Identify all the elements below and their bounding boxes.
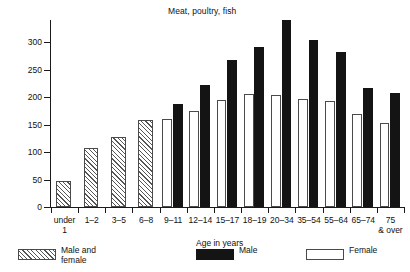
bar <box>217 100 227 207</box>
chart-legend: Male andfemaleMaleFemale <box>0 248 410 272</box>
y-axis-tick-label: 100 <box>2 147 42 157</box>
bar-group <box>377 20 404 207</box>
x-axis-tick <box>78 208 79 213</box>
legend-swatch <box>196 249 234 260</box>
y-axis-tick-label: 150 <box>2 120 42 130</box>
bar-group <box>350 20 377 207</box>
y-axis-tick <box>44 42 51 43</box>
bar <box>227 60 237 207</box>
bar <box>138 120 153 207</box>
y-axis-tick <box>44 152 51 153</box>
bar-group <box>241 20 268 207</box>
x-axis-tick-label: 20–34 <box>270 215 294 225</box>
x-axis-tick-label: under1 <box>54 215 76 235</box>
bar-group <box>187 20 214 207</box>
y-axis-tick-label: 50 <box>2 175 42 185</box>
x-axis-tick <box>241 208 242 213</box>
bar-group <box>295 20 322 207</box>
y-axis-tick-label: 300 <box>2 37 42 47</box>
x-axis-tick <box>214 208 215 213</box>
x-axis-tick <box>105 208 106 213</box>
y-axis-tick-label: 200 <box>2 92 42 102</box>
bar-group <box>78 20 105 207</box>
bar <box>336 52 346 207</box>
y-axis-tick-label: 0 <box>2 202 42 212</box>
x-axis-tick-label: 9–11 <box>164 215 182 225</box>
bar <box>189 111 199 207</box>
bar <box>363 88 373 207</box>
bar <box>244 94 254 207</box>
legend-swatch <box>306 249 344 260</box>
x-axis-tick-label: 15–17 <box>216 215 240 225</box>
bar <box>111 137 126 207</box>
bar-group <box>132 20 159 207</box>
x-axis-tick-label: 75& over <box>378 215 403 235</box>
y-axis-tick <box>44 180 51 181</box>
chart-title: Meat, poultry, fish <box>168 6 236 16</box>
y-axis-tick <box>44 97 51 98</box>
x-axis-tick <box>187 208 188 213</box>
x-axis-line <box>50 207 405 208</box>
x-axis-tick-label: 6–8 <box>139 215 153 225</box>
x-axis-tick-label: 35–54 <box>297 215 321 225</box>
bar-group <box>268 20 295 207</box>
y-axis-tick <box>44 207 51 208</box>
bar-group <box>214 20 241 207</box>
x-axis-tick <box>160 208 161 213</box>
x-axis-tick <box>404 208 405 213</box>
bar <box>84 148 99 207</box>
x-axis-tick-label: 18–19 <box>243 215 267 225</box>
x-axis-tick-label: 12–14 <box>189 215 213 225</box>
y-axis-tick <box>44 125 51 126</box>
bar <box>325 101 335 207</box>
bar <box>56 181 71 207</box>
bar <box>380 123 390 207</box>
bar-group <box>323 20 350 207</box>
bar <box>298 99 308 207</box>
x-axis-tick-label: 65–74 <box>351 215 375 225</box>
x-axis-title: Age in years <box>196 238 243 248</box>
x-axis-tick <box>132 208 133 213</box>
legend-swatch <box>18 249 56 260</box>
x-axis-tick <box>295 208 296 213</box>
bar <box>162 119 172 207</box>
bar-chart: Meat, poultry, fish Grams 05010015020025… <box>0 0 410 272</box>
plot-area <box>51 42 404 207</box>
bar <box>271 95 281 207</box>
x-axis-tick <box>51 208 52 213</box>
bar-group <box>51 20 78 207</box>
x-axis-tick <box>323 208 324 213</box>
x-axis-tick <box>350 208 351 213</box>
x-axis-tick-label: 55–64 <box>324 215 348 225</box>
bar-group <box>160 20 187 207</box>
y-axis-tick <box>44 70 51 71</box>
legend-label: Female <box>349 246 377 256</box>
bar <box>390 93 400 207</box>
bar <box>282 20 292 207</box>
bar-group <box>105 20 132 207</box>
legend-label: Male andfemale <box>61 246 96 265</box>
bar <box>200 85 210 207</box>
bar <box>352 114 362 208</box>
bar <box>254 47 264 207</box>
x-axis-tick <box>377 208 378 213</box>
x-axis-tick-label: 1–2 <box>85 215 99 225</box>
y-axis-tick-label: 250 <box>2 65 42 75</box>
bar <box>173 104 183 207</box>
x-axis-tick <box>268 208 269 213</box>
bar <box>309 40 319 207</box>
x-axis-tick-label: 3–5 <box>112 215 126 225</box>
